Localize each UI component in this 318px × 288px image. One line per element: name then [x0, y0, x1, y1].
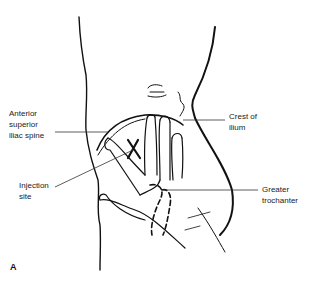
ventrogluteal-injection-diagram: Anterior superior iliac spine Crest of i… — [0, 0, 318, 288]
label-crest-of-ilium: Crest of ilium — [229, 111, 257, 133]
panel-letter: A — [10, 262, 17, 272]
anatomy-drawing — [0, 0, 318, 288]
label-greater-trochanter: Greater trochanter — [262, 184, 298, 206]
label-injection-site: Injection site — [19, 180, 49, 202]
label-anterior-superior-iliac-spine: Anterior superior iliac spine — [9, 108, 44, 141]
